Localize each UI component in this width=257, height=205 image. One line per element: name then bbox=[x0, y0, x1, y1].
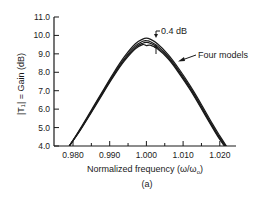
ticks: 4.05.06.07.08.09.010.011.00.9800.9901.00… bbox=[33, 12, 230, 160]
y-tick-label: 11.0 bbox=[34, 12, 50, 22]
y-tick-label: 6.0 bbox=[38, 104, 50, 114]
figure-caption: (a) bbox=[142, 179, 153, 189]
y-axis-label: |T₁| = Gain (dB) bbox=[16, 53, 26, 115]
x-tick-label: 0.990 bbox=[99, 150, 121, 160]
x-tick-label: 0.980 bbox=[62, 150, 84, 160]
y-tick-label: 9.0 bbox=[38, 49, 50, 59]
arrowhead-down-icon bbox=[154, 34, 158, 38]
model-curve bbox=[69, 44, 226, 148]
annotation-spread-label: 0.4 dB bbox=[161, 26, 187, 36]
x-tick-label: 1.010 bbox=[172, 150, 194, 160]
arrowhead-left-icon bbox=[178, 57, 185, 62]
y-tick-label: 4.0 bbox=[38, 141, 50, 151]
y-tick-label: 10.0 bbox=[33, 30, 50, 40]
x-tick-label: 1.000 bbox=[136, 150, 158, 160]
x-axis-label: Normalized frequency (ω/ωo) bbox=[87, 164, 203, 175]
y-tick-label: 5.0 bbox=[38, 123, 50, 133]
annotation-models-label: Four models bbox=[198, 50, 249, 60]
x-tick-label: 1.020 bbox=[209, 150, 231, 160]
y-tick-label: 8.0 bbox=[38, 67, 50, 77]
y-tick-label: 7.0 bbox=[38, 86, 50, 96]
gain-vs-frequency-chart: 4.05.06.07.08.09.010.011.00.9800.9901.00… bbox=[0, 0, 257, 205]
